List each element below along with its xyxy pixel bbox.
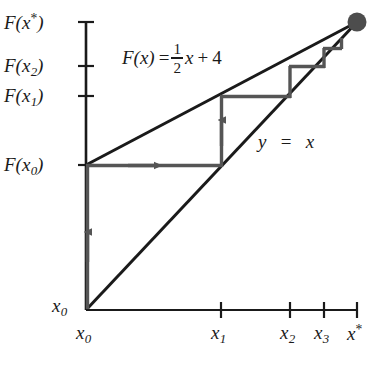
y-axis-origin-label-x0: x0: [52, 296, 67, 319]
x-axis-label-xstar: x*: [347, 323, 362, 343]
fixed-point-dot: [348, 13, 367, 32]
identity-y: y: [258, 131, 266, 152]
function-formula-label: F(x) = 1 2 x + 4: [122, 41, 222, 75]
x-axis-label-x2: x2: [280, 323, 295, 346]
identity-x: x: [306, 131, 314, 152]
cobweb-diagram-figure: F(x*) F(x2) F(x1) F(x0) x0 x0 x1 x2 x3 x…: [0, 0, 381, 366]
formula-denominator: 2: [171, 59, 183, 75]
y-axis-label-fx1: F(x1): [4, 86, 43, 109]
identity-equals: =: [281, 131, 292, 152]
identity-line-label: y = x: [258, 132, 314, 151]
formula-numerator: 1: [171, 41, 183, 57]
x-axis-label-x1: x1: [211, 323, 226, 346]
formula-fraction: 1 2: [171, 41, 183, 75]
formula-plus: +: [197, 48, 208, 67]
y-axis-label-fxstar: F(x*): [4, 12, 44, 32]
formula-constant: 4: [212, 48, 222, 67]
x-axis-label-x0: x0: [76, 323, 91, 346]
x-axis-label-x3: x3: [314, 323, 329, 346]
y-axis-label-fx2: F(x2): [4, 56, 43, 79]
formula-equals: =: [159, 48, 170, 67]
y-axis-label-fx0: F(x0): [4, 155, 43, 178]
formula-lhs: F(x): [122, 48, 155, 67]
formula-variable: x: [185, 48, 193, 67]
